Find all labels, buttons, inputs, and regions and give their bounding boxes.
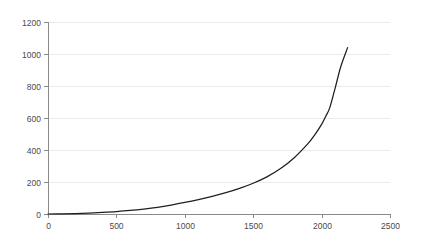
y-tick-label-400: 400 — [27, 146, 41, 156]
x-tick-label-1000: 1000 — [176, 221, 195, 231]
y-tick-label-1200: 1200 — [22, 18, 41, 28]
y-tick-label-0: 0 — [36, 210, 41, 220]
x-tick-label-0: 0 — [46, 221, 51, 231]
y-tick-label-800: 800 — [27, 82, 41, 92]
x-tick-label-1500: 1500 — [244, 221, 263, 231]
x-tick-label-2000: 2000 — [313, 221, 332, 231]
line-chart: 020040060080010001200 050010001500200025… — [0, 0, 421, 243]
x-tick-label-2500: 2500 — [381, 221, 400, 231]
y-tick-label-200: 200 — [27, 178, 41, 188]
y-tick-label-600: 600 — [27, 114, 41, 124]
y-tick-label-1000: 1000 — [22, 50, 41, 60]
chart-container: 020040060080010001200 050010001500200025… — [0, 0, 421, 243]
x-tick-label-500: 500 — [109, 221, 123, 231]
chart-background — [0, 0, 421, 243]
